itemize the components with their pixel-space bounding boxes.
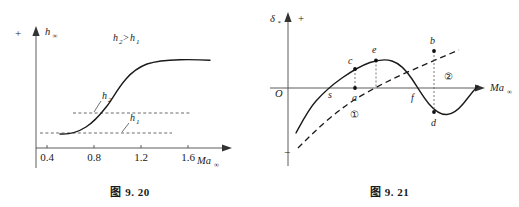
x-axis-label-subscript: ∞ bbox=[214, 161, 219, 169]
point-label-b: b bbox=[430, 35, 435, 46]
point-label-d: d bbox=[431, 117, 437, 128]
figure-sheet: 0.4 0.8 1.2 1.6 + h ∞ Ma ∞ h 2 h 1 h 2 > bbox=[0, 0, 519, 207]
x-tick-label-2: 1.2 bbox=[134, 151, 148, 163]
point-label-a: a bbox=[352, 92, 357, 103]
x-tick-label-0: 0.4 bbox=[40, 151, 54, 163]
region-marker-one: ① bbox=[350, 109, 359, 120]
x-axis-label-subscript: ∞ bbox=[507, 88, 512, 96]
plot-9-21: δ * + − O Ma ∞ c bbox=[260, 0, 519, 178]
inequality-base-right: h bbox=[130, 32, 135, 43]
h1-label-subscript: 1 bbox=[136, 118, 140, 126]
y-axis-negative-sign: − bbox=[284, 146, 290, 158]
y-axis-positive-sign: + bbox=[15, 27, 21, 39]
y-axis-label: δ bbox=[270, 13, 276, 24]
x-axis-arrowhead bbox=[222, 144, 232, 151]
h-infinity-curve bbox=[60, 60, 210, 134]
h2-label: h bbox=[102, 90, 107, 101]
h2-leader-line bbox=[94, 101, 101, 112]
point-marker-b bbox=[432, 49, 436, 53]
figure-panel-9-21: δ * + − O Ma ∞ c bbox=[260, 0, 519, 207]
y-axis-positive-sign: + bbox=[298, 12, 304, 24]
point-marker-c bbox=[353, 67, 357, 71]
curve-2-dashed bbox=[298, 50, 459, 148]
y-axis-label-subscript: ∞ bbox=[53, 32, 58, 40]
y-axis-label-subscript: * bbox=[278, 19, 282, 27]
point-label-e: e bbox=[372, 44, 377, 55]
figure-caption-9-20: 图 9. 20 bbox=[0, 183, 260, 199]
x-axis-label: Ma bbox=[489, 82, 504, 93]
point-label-f: f bbox=[411, 92, 415, 103]
inequality-base-left: h bbox=[113, 32, 118, 43]
figure-caption-9-21: 图 9. 21 bbox=[260, 183, 519, 199]
x-tick-label-1: 0.8 bbox=[87, 151, 101, 163]
point-marker-d bbox=[432, 110, 436, 114]
inequality-operator: > bbox=[123, 32, 130, 43]
h1-leader-line bbox=[122, 123, 129, 132]
y-axis-arrowhead bbox=[32, 26, 39, 36]
point-label-s: s bbox=[328, 89, 332, 100]
h1-label: h bbox=[130, 112, 135, 123]
figure-panel-9-20: 0.4 0.8 1.2 1.6 + h ∞ Ma ∞ h 2 h 1 h 2 > bbox=[0, 0, 260, 207]
point-marker-a bbox=[353, 86, 357, 90]
y-axis-arrowhead bbox=[284, 12, 291, 22]
x-axis-label: Ma bbox=[196, 155, 211, 166]
point-label-c: c bbox=[348, 55, 353, 66]
plot-9-20: 0.4 0.8 1.2 1.6 + h ∞ Ma ∞ h 2 h 1 h 2 > bbox=[0, 0, 260, 178]
region-marker-two: ② bbox=[444, 71, 453, 82]
inequality-subscript-right: 1 bbox=[136, 38, 140, 46]
origin-label: O bbox=[275, 88, 283, 99]
y-axis-label: h bbox=[45, 26, 50, 37]
x-tick-label-3: 1.6 bbox=[181, 151, 195, 163]
point-marker-e bbox=[374, 59, 378, 63]
